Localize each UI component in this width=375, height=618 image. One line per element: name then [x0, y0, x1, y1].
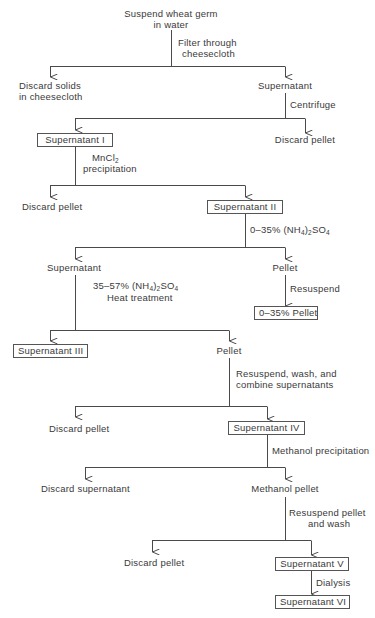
step-filter: Filter through cheesecloth: [178, 37, 237, 59]
node-methanol-pellet: Methanol pellet: [251, 483, 318, 494]
formula-part: SO: [160, 280, 174, 291]
step-filter-line1: Filter through: [178, 37, 237, 48]
step-centrifuge: Centrifuge: [290, 99, 336, 110]
node-supernatant-ii: Supernatant II: [207, 200, 283, 214]
step-dialysis: Dialysis: [316, 577, 350, 588]
node-discard-supernatant: Discard supernatant: [41, 483, 130, 494]
step-resuspend-wash-line2: and wash: [289, 518, 366, 529]
node-supernatant-a: Supernatant: [47, 262, 101, 273]
step-mncl2-line2: precipitation: [83, 163, 137, 174]
node-pellet-b: Pellet: [217, 345, 242, 356]
node-discard-solids-line2: in cheesecloth: [19, 91, 83, 102]
node-discard-solids: Discard solids in cheesecloth: [19, 80, 83, 102]
node-start-line1: Suspend wheat germ: [124, 8, 217, 19]
node-discard-solids-line1: Discard solids: [19, 80, 83, 91]
step-resuspend-wash-combine: Resuspend, wash, and combine supernatant…: [236, 368, 337, 390]
node-start-line2: in water: [124, 19, 217, 30]
flowchart: Suspend wheat germ in water Filter throu…: [0, 0, 375, 618]
node-supernatant-iv: Supernatant IV: [228, 421, 305, 435]
formula-part: SO: [312, 224, 326, 235]
step-mncl2-formula: MnCl: [92, 152, 115, 163]
node-supernatant-vi: Supernatant VI: [275, 595, 350, 609]
step-filter-line2: cheesecloth: [178, 48, 237, 59]
formula-sub: 4: [326, 229, 330, 236]
node-pellet-0-35: 0–35% Pellet: [254, 306, 318, 320]
node-discard-pellet-1: Discard pellet: [275, 134, 335, 145]
step-resuspend-combine-line2: combine supernatants: [236, 379, 337, 390]
step-methanol-precipitation: Methanol precipitation: [272, 445, 369, 456]
formula-part: 35–57% (NH: [93, 280, 149, 291]
node-supernatant-i: Supernatant I: [37, 133, 113, 147]
node-supernatant-iii: Supernatant III: [13, 344, 88, 358]
formula-sub: 4: [175, 285, 179, 292]
node-pellet-a: Pellet: [273, 262, 298, 273]
node-supernatant-initial: Supernatant: [258, 80, 312, 91]
formula-part: 0–35% (NH: [250, 224, 301, 235]
step-resuspend: Resuspend: [290, 283, 340, 294]
step-resuspend-combine-line1: Resuspend, wash, and: [236, 368, 337, 379]
step-mncl2-precipitation: MnCl2 precipitation: [83, 152, 137, 174]
node-start: Suspend wheat germ in water: [124, 8, 217, 30]
node-discard-pellet-3: Discard pellet: [49, 423, 109, 434]
step-ammonium-sulfate-35-57: 35–57% (NH4)2SO4 Heat treatment: [93, 280, 178, 303]
step-resuspend-pellet-wash: Resuspend pellet and wash: [289, 507, 366, 529]
node-supernatant-v: Supernatant V: [275, 557, 349, 571]
node-discard-pellet-2: Discard pellet: [22, 201, 82, 212]
step-resuspend-wash-line1: Resuspend pellet: [289, 507, 366, 518]
node-discard-pellet-4: Discard pellet: [124, 557, 184, 568]
step-heat-treatment: Heat treatment: [93, 292, 178, 303]
step-ammonium-sulfate-0-35: 0–35% (NH4)2SO4: [250, 224, 330, 235]
